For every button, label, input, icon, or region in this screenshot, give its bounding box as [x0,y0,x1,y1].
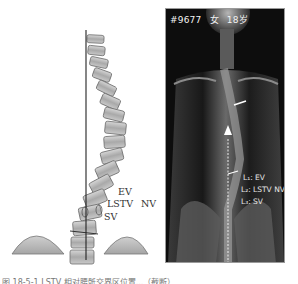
xray-image [166,9,285,263]
label-nv: NV [141,198,156,209]
label-sv: SV [104,211,117,222]
xray-label-l3: L₃: SV [241,197,263,206]
right-iliac-wing [104,237,148,254]
patient-id: #9677 [170,15,201,25]
xray-panel: #9677 女 18岁 L₁: EV L₂: LSTV NV L₃: SV [165,8,285,263]
left-iliac-wing [12,236,64,254]
figure-caption: 图 18-5-1 LSTV 相对腰骶交界区位置...（截断） [2,276,298,284]
xray-label-l2: L₂: LSTV NV [241,185,285,194]
vertebral-column [70,35,127,264]
spine-diagram [0,0,152,270]
spine-diagram-panel: EV LSTV NV SV [0,0,152,270]
label-ev: EV [118,186,132,197]
xray-label-l1: L₁: EV [243,173,265,182]
patient-sex: 女 [210,15,219,25]
patient-info: #9677 女 18岁 [170,13,253,26]
patient-age: 18岁 [227,15,248,25]
label-lstv: LSTV [107,198,133,209]
